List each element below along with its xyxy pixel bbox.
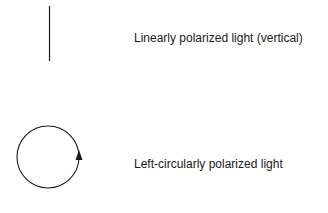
circular-polarization-label: Left-circularly polarized light	[134, 157, 283, 171]
linear-polarization-label: Linearly polarized light (vertical)	[134, 31, 303, 45]
arrow-up-icon	[76, 150, 83, 160]
circular-polarization-circle	[17, 126, 79, 188]
